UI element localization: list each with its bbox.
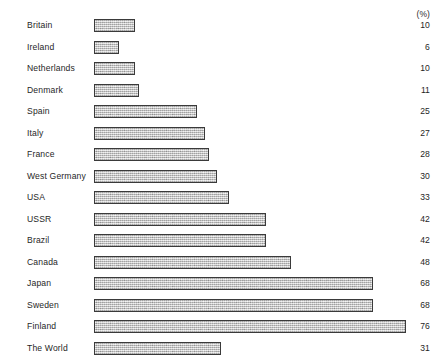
table-row: Denmark11 [0,78,446,102]
value-label: 10 [420,56,430,80]
value-label: 30 [420,164,430,188]
category-label: Netherlands [27,56,75,80]
value-label: 48 [420,250,430,274]
table-row: The World31 [0,336,446,360]
bar [94,84,139,97]
horizontal-bar-chart: (%) Britain10Ireland6Netherlands10Denmar… [0,0,446,362]
bar [94,62,135,75]
category-label: Canada [27,250,58,274]
value-label: 31 [420,336,430,360]
category-label: USA [27,185,45,209]
value-label: 11 [421,78,430,102]
category-label: USSR [27,207,51,231]
bar [94,256,291,269]
value-label: 76 [420,314,430,338]
table-row: USSR42 [0,207,446,231]
table-row: France28 [0,142,446,166]
bar [94,299,373,312]
table-row: Italy27 [0,121,446,145]
value-label: 27 [420,121,430,145]
category-label: The World [27,336,68,360]
value-label: 28 [420,142,430,166]
category-label: France [27,142,55,166]
value-label: 42 [420,207,430,231]
category-label: Finland [27,314,56,338]
bar [94,41,119,54]
value-label: 6 [425,35,430,59]
table-row: Netherlands10 [0,56,446,80]
bar [94,191,229,204]
category-label: Britain [27,13,52,37]
table-row: Sweden68 [0,293,446,317]
value-label: 33 [420,185,430,209]
bar [94,127,205,140]
table-row: West Germany30 [0,164,446,188]
bar [94,19,135,32]
bar [94,277,373,290]
category-label: Brazil [27,228,49,252]
category-label: Denmark [27,78,63,102]
bar [94,342,221,355]
bar [94,234,266,247]
category-label: Japan [27,271,51,295]
value-label: 25 [420,99,430,123]
table-row: Japan68 [0,271,446,295]
value-label: 42 [420,228,430,252]
table-row: Spain25 [0,99,446,123]
value-label: 10 [420,13,430,37]
value-label: 68 [420,293,430,317]
table-row: Canada48 [0,250,446,274]
table-row: Brazil42 [0,228,446,252]
category-label: Spain [27,99,50,123]
category-label: Sweden [27,293,59,317]
table-row: Finland76 [0,314,446,338]
table-row: Ireland6 [0,35,446,59]
bar [94,320,406,333]
table-row: Britain10 [0,13,446,37]
category-label: West Germany [27,164,86,188]
bar [94,148,209,161]
table-row: USA33 [0,185,446,209]
value-label: 68 [420,271,430,295]
bar [94,105,197,118]
bar [94,170,217,183]
category-label: Ireland [27,35,54,59]
bar [94,213,266,226]
category-label: Italy [27,121,44,145]
